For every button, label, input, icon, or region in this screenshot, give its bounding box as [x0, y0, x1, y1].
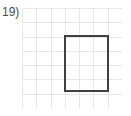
shape-layer	[22, 8, 122, 108]
geometry-problem-figure: 19)	[0, 0, 131, 116]
rectangle-shape	[65, 36, 108, 91]
problem-number-label: 19)	[2, 5, 19, 19]
grid-container	[22, 8, 122, 108]
